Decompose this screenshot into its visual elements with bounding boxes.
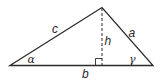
height-label: h	[105, 34, 112, 48]
triangle-diagram: c h a α γ b	[0, 0, 164, 82]
angle-gamma-label: γ	[129, 53, 136, 66]
side-b-label: b	[82, 67, 89, 81]
side-a-label: a	[129, 26, 136, 40]
right-angle-marker	[96, 59, 103, 66]
angle-alpha-label: α	[28, 53, 36, 66]
side-c-label: c	[52, 22, 58, 36]
